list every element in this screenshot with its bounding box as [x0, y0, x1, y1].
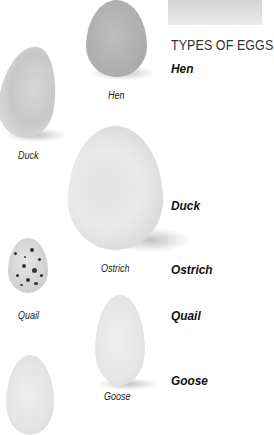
list-item-ostrich: Ostrich [171, 262, 213, 277]
list-item-goose: Goose [171, 373, 208, 388]
goose-egg-caption: Goose [104, 391, 131, 402]
top-photo-fragment [168, 0, 262, 25]
ostrich-egg-caption: Ostrich [101, 263, 130, 274]
duck-egg-image [0, 43, 62, 142]
quail-egg-caption: Quail [18, 310, 39, 321]
quail-egg-image [8, 238, 48, 293]
duck-egg-caption: Duck [18, 150, 39, 161]
list-item-duck: Duck [171, 198, 200, 213]
list-item-hen: Hen [171, 61, 193, 76]
hen-egg-caption: Hen [108, 90, 125, 101]
partial-egg-image [6, 355, 54, 435]
hen-egg-image [86, 0, 147, 77]
page-title: TYPES OF EGGS [171, 37, 273, 53]
list-item-quail: Quail [171, 308, 201, 323]
goose-egg-image [95, 295, 145, 385]
ostrich-egg-image [68, 126, 163, 250]
